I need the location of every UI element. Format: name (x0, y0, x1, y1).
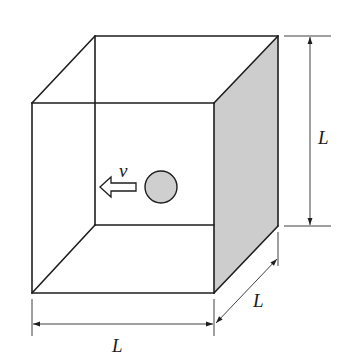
velocity-arrow-icon (100, 177, 136, 197)
width-dimension (32, 299, 214, 336)
width-label: L (111, 335, 123, 356)
ball (145, 171, 177, 203)
shaded-right-face (214, 36, 278, 293)
cube-diagram: v L L L (0, 0, 352, 361)
velocity-label: v (119, 160, 128, 181)
depth-label: L (252, 290, 264, 311)
height-label: L (317, 127, 329, 148)
